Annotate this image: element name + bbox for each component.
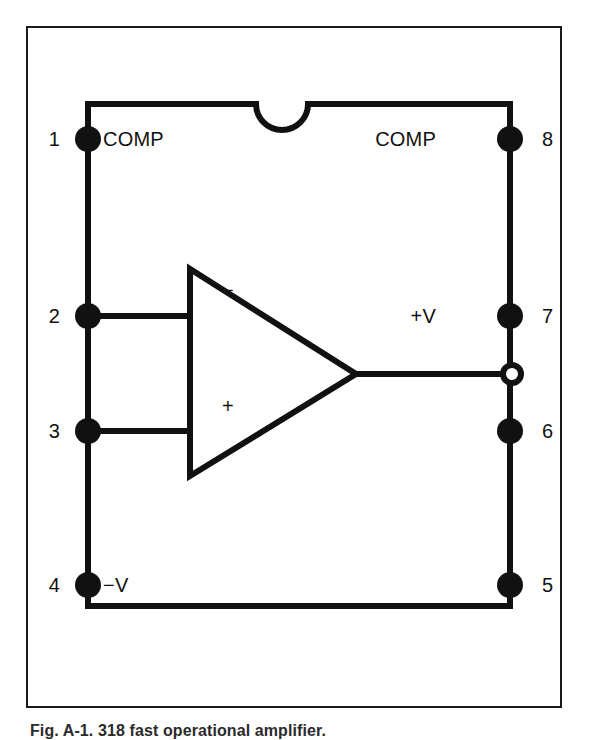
pin-label-positive-supply: +V — [411, 306, 436, 326]
pin-dot-8 — [497, 126, 523, 152]
pin-number-4: 4 — [38, 575, 60, 595]
pin-number-2: 2 — [38, 306, 60, 326]
pin-dot-7 — [497, 303, 523, 329]
pin-dot-1 — [75, 126, 101, 152]
pin-number-8: 8 — [542, 129, 564, 149]
pin-label-comp-right: COMP — [375, 129, 436, 149]
pin-dot-5 — [497, 572, 523, 598]
figure-caption: Fig. A-1. 318 fast operational amplifier… — [30, 722, 570, 740]
pin-number-3: 3 — [38, 421, 60, 441]
output-terminal-open-circle — [503, 365, 521, 383]
pin-number-7: 7 — [542, 306, 564, 326]
pin-label-negative-supply: −V — [103, 575, 128, 595]
pin-dot-6 — [497, 418, 523, 444]
pin-dot-3 — [75, 418, 101, 444]
pin-dot-2 — [75, 303, 101, 329]
pin-number-1: 1 — [38, 129, 60, 149]
noninverting-input-sign: + — [222, 396, 234, 416]
inverting-input-sign: − — [222, 280, 234, 300]
pin-label-comp-left: COMP — [103, 129, 164, 149]
pin-number-6: 6 — [542, 421, 564, 441]
pin-dot-4 — [75, 572, 101, 598]
pin-number-5: 5 — [542, 575, 564, 595]
figure-container: 1 2 3 4 8 7 6 5 COMP COMP +V −V − + Fig.… — [0, 0, 596, 740]
